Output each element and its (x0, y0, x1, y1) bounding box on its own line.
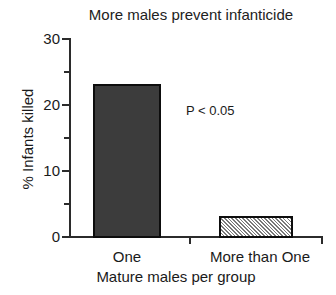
chart-title: More males prevent infanticide (66, 5, 316, 24)
x-tick-end (321, 236, 323, 244)
bar-more-than-one (219, 216, 293, 238)
x-category-label-one: One (79, 248, 175, 266)
y-tick-minor-5 (64, 203, 70, 205)
y-tick-0 (62, 236, 70, 238)
y-tick-20 (62, 104, 70, 106)
y-tick-label-10: 10 (30, 163, 60, 178)
p-value-annotation: P < 0.05 (186, 103, 235, 118)
x-category-label-more-than-one: More than One (190, 248, 330, 266)
y-tick-30 (62, 38, 70, 40)
bar-one (93, 84, 161, 238)
x-axis-title: Mature males per group (46, 268, 306, 286)
y-tick-label-20: 20 (30, 97, 60, 112)
chart-figure: More males prevent infanticide % Infants… (0, 0, 336, 295)
y-tick-minor-25 (64, 71, 70, 73)
y-tick-label-0: 0 (30, 229, 60, 244)
y-tick-10 (62, 170, 70, 172)
x-tick-separator (189, 236, 191, 244)
y-tick-label-group: 30 20 10 0 (28, 0, 60, 295)
y-tick-label-30: 30 (30, 31, 60, 46)
y-tick-minor-15 (64, 137, 70, 139)
